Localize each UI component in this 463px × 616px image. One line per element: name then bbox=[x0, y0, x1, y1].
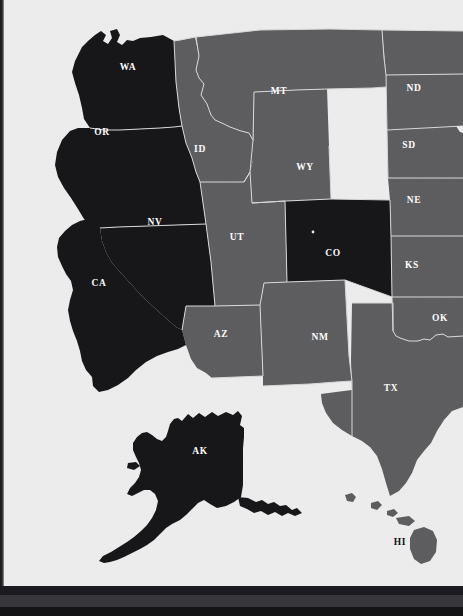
state-label-HI: HI bbox=[394, 537, 406, 547]
state-label-OR: OR bbox=[94, 127, 109, 137]
state-label-AZ: AZ bbox=[214, 329, 228, 339]
state-shape-ND[interactable] bbox=[382, 30, 463, 75]
state-shape-SD[interactable] bbox=[386, 74, 463, 178]
state-shape-WA[interactable] bbox=[72, 29, 182, 130]
state-shape-OR[interactable] bbox=[55, 126, 206, 228]
state-label-TX: TX bbox=[384, 383, 398, 393]
map-page: WA OR CA NV ID MT WY UT CO AZ NM ND SD N… bbox=[0, 0, 463, 616]
state-label-ID: ID bbox=[194, 144, 206, 154]
state-label-ND: ND bbox=[407, 83, 422, 93]
state-label-NM: NM bbox=[311, 332, 328, 342]
state-label-SD: SD bbox=[402, 140, 415, 150]
state-label-WA: WA bbox=[120, 62, 137, 72]
state-shape-OK[interactable] bbox=[392, 297, 463, 341]
state-label-NV: NV bbox=[148, 217, 163, 227]
state-label-WY: WY bbox=[296, 162, 314, 172]
state-shape-NM[interactable] bbox=[260, 280, 352, 386]
state-shape-AZ[interactable] bbox=[182, 305, 263, 378]
state-label-AK: AK bbox=[192, 446, 207, 456]
bottom-dark-bar bbox=[0, 586, 463, 616]
state-label-MT: MT bbox=[271, 86, 288, 96]
us-map[interactable]: WA OR CA NV ID MT WY UT CO AZ NM ND SD N… bbox=[0, 0, 463, 586]
bottom-bar-band-top bbox=[0, 586, 463, 595]
state-label-CO: CO bbox=[325, 248, 340, 258]
bottom-bar-band-bottom bbox=[0, 607, 463, 616]
state-shape-KS[interactable] bbox=[391, 236, 463, 297]
state-shape-NE[interactable] bbox=[388, 178, 463, 236]
state-shape-WY[interactable] bbox=[250, 89, 331, 203]
state-label-NE: NE bbox=[407, 195, 421, 205]
state-shape-AK-aleutians bbox=[238, 497, 302, 516]
bottom-bar-band-middle bbox=[0, 595, 463, 607]
state-label-OK: OK bbox=[432, 313, 448, 323]
marker-dot bbox=[312, 231, 315, 234]
state-label-CA: CA bbox=[92, 278, 107, 288]
left-binding-strip bbox=[0, 0, 4, 586]
state-label-UT: UT bbox=[230, 232, 244, 242]
state-label-KS: KS bbox=[405, 260, 419, 270]
state-shape-HI[interactable] bbox=[345, 493, 437, 564]
state-shape-AK[interactable] bbox=[99, 411, 244, 563]
